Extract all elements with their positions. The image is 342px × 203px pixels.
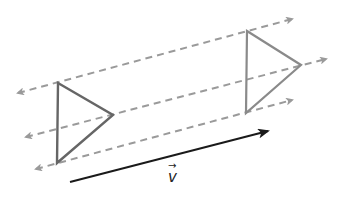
guide-line-1 — [18, 19, 292, 93]
vector-label: → v — [168, 170, 177, 185]
guide-line-2 — [26, 59, 326, 137]
guide-lines — [18, 19, 326, 169]
vector-arrow-accent-icon: → — [168, 161, 176, 171]
original-triangle — [57, 83, 113, 163]
